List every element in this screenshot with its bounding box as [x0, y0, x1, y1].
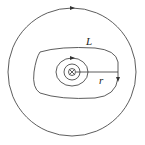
label-r: r — [99, 74, 103, 86]
magnetic-field-diagram: L r — [0, 0, 145, 145]
label-L: L — [86, 35, 92, 47]
loop-arrow-icon — [116, 77, 120, 82]
amperian-loop-L — [34, 48, 118, 99]
outer-arrow-icon — [70, 6, 75, 10]
inner-arrow-icon — [70, 56, 75, 60]
